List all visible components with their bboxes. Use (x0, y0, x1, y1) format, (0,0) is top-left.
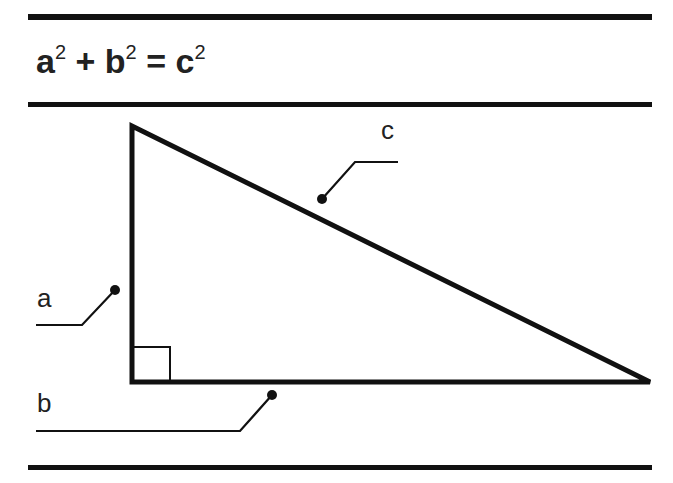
triangle-diagram (0, 0, 673, 483)
label-b: b (37, 388, 51, 419)
leader-dot-a (110, 285, 120, 295)
right-angle-marker (134, 347, 170, 380)
leader-dot-b (267, 390, 277, 400)
label-a: a (37, 283, 51, 314)
leader-line-c (322, 162, 398, 199)
leader-line-b (36, 395, 272, 431)
label-c: c (381, 115, 394, 146)
bottom-rule (28, 465, 652, 470)
right-triangle (132, 126, 650, 382)
leader-dot-c (317, 194, 327, 204)
